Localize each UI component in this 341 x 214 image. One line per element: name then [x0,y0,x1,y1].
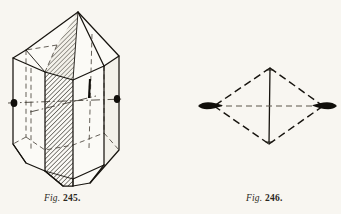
caption-fig-246: Fig. 246. [246,193,283,203]
edge-bottom-right [269,106,323,144]
axis-lens-right [312,102,337,109]
edge-top-right [270,68,323,106]
plate-canvas: Fig. 245. Fig. 246. [0,0,341,214]
caption-fig-246-prefix: Fig. [246,193,262,203]
caption-fig-245-prefix: Fig. [44,193,60,203]
axis-knob-left [11,99,18,107]
axis-knob-right [114,95,120,103]
axis-lens-left [198,102,223,109]
caption-fig-245: Fig. 245. [44,193,81,203]
axis-vertical-accent [89,79,90,98]
face-right-rear-prism [104,56,119,165]
caption-fig-246-number: 246. [265,193,283,203]
edge-bottom-left [214,106,269,144]
caption-fig-245-number: 245. [63,193,81,203]
face-right-front-prism [73,66,104,179]
figure-plate: Fig. 245. Fig. 246. [0,0,341,214]
fig-245-drawing [0,0,150,190]
edge-top-left [214,68,270,106]
fig-246-drawing [190,48,341,168]
